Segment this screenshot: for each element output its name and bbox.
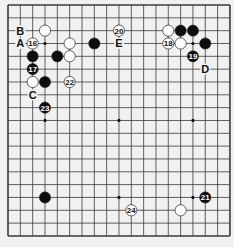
star-point [117,119,120,122]
star-point [191,196,194,199]
move-number: 22 [65,78,74,87]
black-stone [52,51,63,62]
star-point [43,119,46,122]
black-stone-disc [89,38,100,49]
black-stone-disc [39,192,50,203]
white-stone [175,38,186,49]
white-stone [39,25,50,36]
white-stone-disc [175,38,186,49]
black-stone [39,76,50,87]
go-board[interactable]: BACED 161722232018192421 [0,0,234,247]
white-stone [64,38,75,49]
white-stone-16: 16 [27,38,38,49]
move-number: 18 [164,39,173,48]
move-number: 20 [115,27,124,36]
black-stone-disc [200,38,211,49]
black-stone [175,25,186,36]
white-stone-disc [39,25,50,36]
move-number: 24 [127,206,136,215]
black-stone [39,192,50,203]
letter-marker-e: E [115,37,122,49]
white-stone-disc [64,38,75,49]
letter-marker-b: B [16,25,24,37]
white-stone-disc [64,51,75,62]
star-point [191,119,194,122]
go-board-grid[interactable]: BACED 161722232018192421 [0,0,234,247]
white-stone [175,205,186,216]
move-number: 23 [41,104,50,113]
move-number: 19 [188,52,197,61]
black-stone-disc [39,76,50,87]
letter-marker-c: C [29,89,37,101]
black-stone-disc [175,25,186,36]
black-stone [200,38,211,49]
black-stone-disc [187,25,198,36]
black-stone-disc [27,51,38,62]
black-stone-disc [52,51,63,62]
star-point [117,196,120,199]
star-point [191,42,194,45]
white-stone-20: 20 [113,25,124,36]
letter-marker-d: D [201,63,209,75]
white-stone-22: 22 [64,76,75,87]
white-stone-disc [175,205,186,216]
move-number: 16 [28,39,37,48]
white-stone-disc [163,25,174,36]
white-stone-18: 18 [163,38,174,49]
black-stone-17: 17 [27,64,38,75]
star-point [43,42,46,45]
white-stone-disc [27,76,38,87]
move-number: 17 [28,65,37,74]
white-stone [163,25,174,36]
move-number: 21 [201,193,210,202]
white-stone-24: 24 [126,205,137,216]
black-stone [187,25,198,36]
black-stone [89,38,100,49]
black-stone-23: 23 [39,102,50,113]
letter-marker-a: A [16,37,24,49]
white-stone [64,51,75,62]
black-stone [27,51,38,62]
white-stone [27,76,38,87]
black-stone-21: 21 [200,192,211,203]
black-stone-19: 19 [187,51,198,62]
